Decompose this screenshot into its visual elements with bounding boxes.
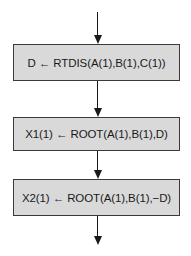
entry-arrow-head-icon: [94, 35, 102, 44]
process-label-root-x1: X1(1) ← ROOT(A(1),B(1),D): [25, 128, 168, 140]
exit-arrow-head-icon: [94, 236, 102, 245]
process-label-rtdis: D ← RTDIS(A(1),B(1),C(1)): [28, 57, 166, 69]
entry-arrow-shaft: [97, 12, 98, 36]
process-box-rtdis: D ← RTDIS(A(1),B(1),C(1)): [13, 44, 180, 81]
process-label-root-x2: X2(1) ← ROOT(A(1),B(1),−D): [22, 192, 171, 204]
arrow-head-2-3-icon: [94, 170, 102, 179]
process-box-root-x2: X2(1) ← ROOT(A(1),B(1),−D): [13, 179, 180, 216]
process-box-root-x1: X1(1) ← ROOT(A(1),B(1),D): [13, 117, 180, 151]
arrow-head-1-2-icon: [94, 108, 102, 117]
exit-arrow-shaft: [97, 216, 98, 237]
arrow-shaft-1-2: [97, 81, 98, 109]
arrow-shaft-2-3: [97, 151, 98, 171]
